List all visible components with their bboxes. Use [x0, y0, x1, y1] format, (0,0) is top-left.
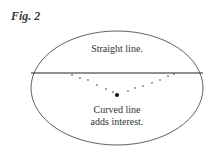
curved-line-caption-line1: Curved line: [77, 104, 157, 116]
straight-line-caption: Straight line.: [77, 43, 157, 55]
curved-line-caption-line2: adds interest.: [77, 116, 157, 128]
ellipse-diagram: [0, 0, 214, 152]
focal-point: [115, 93, 119, 97]
curved-dotted-line: [71, 73, 175, 93]
